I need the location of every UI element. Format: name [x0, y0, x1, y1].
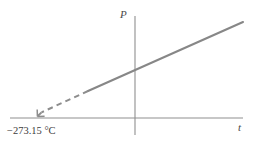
x-axis-label: t [238, 121, 242, 133]
pressure-temperature-figure: P t −273.15 °C [0, 0, 256, 151]
absolute-zero-label: −273.15 °C [7, 125, 56, 136]
y-axis-label: P [119, 8, 127, 20]
measured-line-solid [88, 22, 243, 91]
extrapolation-line-dashed [42, 91, 89, 112]
figure-canvas: P t −273.15 °C [0, 0, 256, 151]
